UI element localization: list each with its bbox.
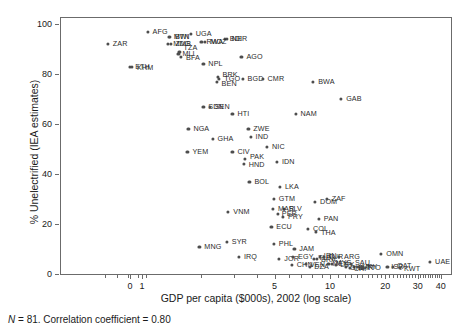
data-point-label: MLI [182,50,194,57]
x-tick-mark [130,275,131,279]
y-tick-mark [55,174,59,175]
data-point-label: ZAF [332,195,346,202]
y-tick-label: 60 [20,120,52,129]
x-minor-tick-mark [368,275,369,278]
data-point-label: AGO [246,53,262,60]
x-minor-tick-mark [146,275,147,278]
x-minor-tick-mark [128,275,129,278]
y-tick-mark [55,124,59,125]
data-point-label: NPL [208,60,222,67]
y-tick-label: 40 [20,170,52,179]
data-point-label: CMR [268,75,285,82]
data-point-label: NIC [272,143,285,150]
data-point-label: KWT [404,265,420,272]
data-point-label: MNG [204,243,221,250]
x-minor-tick-mark [393,275,394,278]
data-point-label: BWA [318,78,334,85]
y-tick-label: 80 [20,70,52,79]
data-point-label: KHM [137,64,153,71]
x-minor-tick-mark [403,275,404,278]
data-point-label: GTM [279,195,295,202]
x-minor-tick-mark [423,275,424,278]
x-minor-tick-mark [409,275,410,278]
data-point-label: ECU [276,223,291,230]
x-minor-tick-mark [415,275,416,278]
y-tick-label: 20 [20,220,52,229]
x-minor-tick-mark [357,275,358,278]
x-minor-tick-mark [312,275,313,278]
data-point-label: UAE [435,258,450,265]
data-point-label: AFG [153,28,168,35]
x-tick-label: 30 [413,282,423,291]
x-minor-tick-mark [338,275,339,278]
x-tick-label: 0 [127,282,132,291]
data-point-label: BOL [254,178,269,185]
x-minor-tick-mark [397,275,398,278]
data-point-label: EGY [298,253,313,260]
data-point-label: HTI [237,110,249,117]
x-minor-tick-mark [372,275,373,278]
x-minor-tick-mark [138,275,139,278]
scatter-chart-figure: % Unelectrified (IEA estimates) GDP per … [0,0,461,331]
x-tick-label: 20 [380,282,390,291]
x-minor-tick-mark [362,275,363,278]
x-minor-tick-mark [322,275,323,278]
chart-caption: N = 81. Correlation coefficient = 0.80 [8,314,171,325]
x-minor-tick-mark [345,275,346,278]
x-minor-tick-mark [117,275,118,278]
data-point-label: TTO [366,264,381,271]
data-point-label: LKA [285,183,299,190]
x-minor-tick-mark [400,275,401,278]
y-tick-mark [55,224,59,225]
data-point-label: HND [249,161,265,168]
x-tick-label: 1 [139,282,144,291]
data-point-label: PHL [279,240,293,247]
data-point-label: IDN [282,158,295,165]
x-minor-tick-mark [381,275,382,278]
x-minor-tick-mark [428,275,429,278]
data-point-label: SYR [232,238,247,245]
y-tick-mark [55,274,59,275]
x-minor-tick-mark [301,275,302,278]
x-minor-tick-mark [441,275,442,278]
y-tick-mark [55,74,59,75]
data-point-label: CIV [237,148,249,155]
x-minor-tick-mark [257,275,258,278]
x-minor-tick-mark [435,275,436,278]
x-minor-tick-mark [275,275,276,278]
data-point-label: PRY [288,213,303,220]
x-minor-tick-mark [430,275,431,278]
data-point-label: GAB [346,95,361,102]
data-point-label: BEN [222,80,237,87]
x-tick-mark [142,275,143,279]
x-minor-tick-mark [289,275,290,278]
x-minor-tick-mark [351,275,352,278]
x-tick-label: 40 [436,282,446,291]
y-tick-label: 0 [20,270,52,279]
y-tick-mark [55,24,59,25]
data-point-label: YEM [192,148,208,155]
data-point-label: GHA [218,135,234,142]
y-axis-title: % Unelectrified (IEA estimates) [28,32,40,272]
x-minor-tick-mark [105,275,106,278]
data-point-label: SEN [215,103,230,110]
x-axis-title: GDP per capita ($000s), 2002 (log scale) [60,292,452,304]
x-minor-tick-mark [437,275,438,278]
caption-text: = 81. Correlation coefficient = 0.80 [15,314,170,325]
x-tick-label: 10 [325,282,335,291]
data-point-label: BDI [230,35,242,42]
x-minor-tick-mark [432,275,433,278]
x-minor-tick-mark [412,275,413,278]
data-point-label: IND [256,133,269,140]
x-minor-tick-mark [385,275,386,278]
data-point-label: NGA [193,125,209,132]
data-point-label: THA [321,229,336,236]
x-minor-tick-mark [234,275,235,278]
x-minor-tick-mark [377,275,378,278]
data-point-label: OMN [386,250,403,257]
x-minor-tick-mark [420,275,421,278]
x-minor-tick-mark [406,275,407,278]
data-point-label: NAM [301,110,317,117]
data-point-label: PAN [324,215,339,222]
x-minor-tick-mark [418,275,419,278]
